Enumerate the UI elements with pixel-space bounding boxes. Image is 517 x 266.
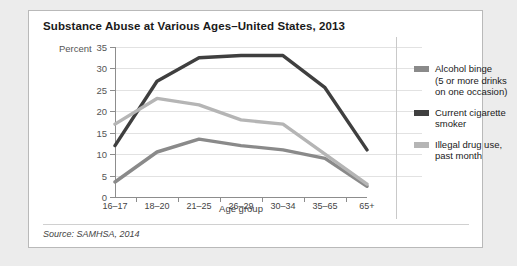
legend-label-alcohol-binge: Alcohol binge (5 or more drinks on one o…: [435, 63, 507, 98]
x-axis-tick: [178, 197, 179, 202]
x-axis-tick: [304, 197, 305, 202]
legend-label-current-cigarette-smoker: Current cigarette smoker: [435, 107, 506, 130]
legend-swatch-alcohol-binge: [414, 66, 429, 72]
legend-swatch-current-cigarette-smoker: [414, 110, 429, 116]
y-axis-tick-label: 15: [96, 127, 107, 138]
legend-swatch-illegal-drug-use: [414, 142, 429, 148]
legend-label-illegal-drug-use: Illegal drug use, past month: [435, 139, 502, 162]
plot-area: 05101520253035 16–1718–2021–2526–2930–34…: [115, 47, 367, 197]
legend-label-line1: Illegal drug use,: [435, 139, 502, 150]
y-axis-caption: Percent: [59, 43, 92, 54]
y-axis-tick-label: 20: [96, 106, 107, 117]
y-axis-tick: [110, 197, 115, 198]
legend-label-line3: on one occasion): [435, 86, 507, 97]
source-divider: [43, 224, 469, 225]
legend-item-current-cigarette-smoker[interactable]: Current cigarette smoker: [414, 107, 514, 130]
legend-label-line1: Alcohol binge: [435, 63, 492, 74]
x-axis-line: [115, 197, 367, 198]
y-axis-tick-label: 35: [96, 42, 107, 53]
source-note: Source: SAMHSA, 2014: [43, 229, 140, 239]
y-axis-tick-label: 25: [96, 84, 107, 95]
legend-label-line2: (5 or more drinks: [435, 75, 507, 86]
chart-legend: Alcohol binge (5 or more drinks on one o…: [414, 63, 514, 171]
x-axis-title: Age group: [115, 203, 367, 214]
x-axis-tick: [136, 197, 137, 202]
x-axis-tick: [220, 197, 221, 202]
y-axis-tick-label: 10: [96, 149, 107, 160]
legend-item-illegal-drug-use[interactable]: Illegal drug use, past month: [414, 139, 514, 162]
series-line: [115, 139, 367, 186]
x-axis-tick: [262, 197, 263, 202]
legend-label-line2: past month: [435, 150, 482, 161]
series-line: [115, 98, 367, 184]
legend-item-alcohol-binge[interactable]: Alcohol binge (5 or more drinks on one o…: [414, 63, 514, 98]
legend-label-line1: Current cigarette: [435, 107, 506, 118]
series-lines: [115, 47, 367, 197]
page-title: Substance Abuse at Various Ages–United S…: [43, 20, 345, 32]
legend-label-line2: smoker: [435, 118, 466, 129]
y-axis-tick-label: 30: [96, 63, 107, 74]
y-axis-tick-label: 5: [102, 170, 107, 181]
x-axis-tick: [346, 197, 347, 202]
legend-divider: [396, 37, 397, 219]
chart-card: Substance Abuse at Various Ages–United S…: [28, 10, 483, 248]
